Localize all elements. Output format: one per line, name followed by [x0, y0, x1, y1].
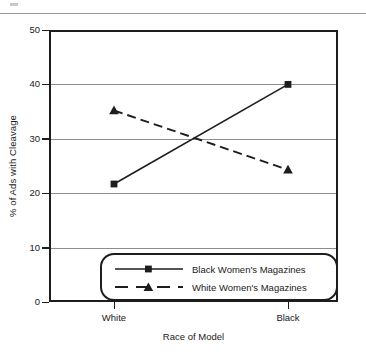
x-tick-label-black: Black — [248, 312, 328, 323]
gridline-30 — [51, 139, 336, 140]
x-tick-label-white: White — [74, 312, 154, 323]
legend-label-black-womens-magazines: Black Women's Magazines — [185, 264, 306, 275]
legend-label-white-womens-magazines: White Women's Magazines — [185, 282, 307, 293]
y-tick-label-0: 0 — [35, 296, 40, 308]
y-tick-label-30: 30 — [29, 133, 40, 145]
legend-entry-white-womens-magazines[interactable]: White Women's Magazines — [102, 278, 336, 296]
x-tick-mark-black — [288, 302, 290, 309]
legend-entry-black-womens-magazines[interactable]: Black Women's Magazines — [102, 260, 336, 278]
gridline-20 — [51, 193, 336, 194]
x-axis-title: Race of Model — [49, 331, 338, 342]
y-tick-mark-0 — [42, 302, 49, 304]
gridline-40 — [51, 84, 336, 85]
y-tick-mark-30 — [42, 138, 49, 140]
y-tick-mark-20 — [42, 193, 49, 195]
y-tick-label-10: 10 — [29, 242, 40, 254]
page-artifact-mark — [10, 3, 18, 6]
y-tick-label-40: 40 — [29, 78, 40, 90]
legend-sample-solid-square-icon — [113, 260, 185, 278]
chart-figure: % of Ads with Cleavage 50 40 30 20 10 0 — [0, 13, 366, 352]
gridline-10 — [51, 248, 336, 249]
y-tick-mark-40 — [42, 84, 49, 86]
chart-legend[interactable]: Black Women's Magazines White Women's Ma… — [100, 253, 338, 301]
y-tick-mark-10 — [42, 247, 49, 249]
y-tick-label-50: 50 — [29, 24, 40, 36]
x-tick-mark-white — [114, 302, 116, 309]
y-tick-mark-50 — [42, 30, 49, 32]
y-axis-ticks: 50 40 30 20 10 0 — [0, 30, 49, 302]
y-tick-label-20: 20 — [29, 187, 40, 199]
legend-sample-dashed-triangle-icon — [113, 278, 185, 296]
